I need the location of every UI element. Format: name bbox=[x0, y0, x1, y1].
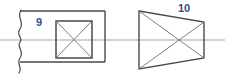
trapezoid-diagonal-down bbox=[139, 11, 204, 58]
left-component-group bbox=[18, 10, 105, 73]
trapezoid-diagonal-up bbox=[139, 22, 204, 69]
part-label-9: 9 bbox=[36, 16, 42, 28]
part-label-10: 10 bbox=[178, 2, 190, 14]
diagram-canvas: 9 10 bbox=[0, 0, 225, 77]
technical-diagram: 9 10 bbox=[0, 0, 225, 77]
wavy-break-line-icon bbox=[18, 10, 21, 73]
